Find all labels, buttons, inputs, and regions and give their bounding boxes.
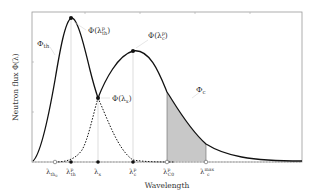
marker-lambda-c0p (165, 160, 169, 164)
phi-c-shaded-area (167, 92, 206, 162)
thermal-tail-dotted (98, 98, 175, 162)
xtick-lambda-x: λx (94, 168, 101, 177)
cold-rise-dotted (55, 98, 98, 162)
neutron-flux-chart: Φth Φ(λpth) Φ(λpc) Φ(λx) Φc λth0 λpth λx… (0, 0, 314, 195)
cold-peak-point (131, 49, 135, 53)
leader-lines (50, 22, 200, 98)
label-phi-th: Φth (37, 39, 50, 49)
marker-lambda-cp (131, 160, 135, 164)
marker-lambda-x (96, 160, 100, 164)
label-phi-x: Φ(λx) (112, 94, 132, 104)
thermal-peak-point (69, 16, 73, 20)
xtick-lambda-cp: λpc (129, 167, 137, 177)
intersection-point (96, 96, 100, 100)
label-phi-peak-th: Φ(λpth) (88, 25, 110, 36)
xtick-lambda-c0p: λpC0 (163, 167, 174, 177)
y-axis-label: Neutron flux Φ(λ) (11, 53, 20, 120)
marker-lambda-thp (69, 160, 73, 164)
label-phi-c: Φc (196, 85, 206, 95)
xtick-lambda-thp: λpth (66, 167, 76, 177)
label-phi-peak-c: Φ(λpc) (148, 30, 168, 41)
x-axis-label: Wavelength (145, 181, 190, 190)
xtick-lambda-th0: λth0 (46, 168, 57, 178)
xtick-lambda-cmax: λmaxc (200, 167, 214, 177)
marker-lambda-cmax (204, 160, 208, 164)
marker-lambda-th0 (53, 160, 57, 164)
